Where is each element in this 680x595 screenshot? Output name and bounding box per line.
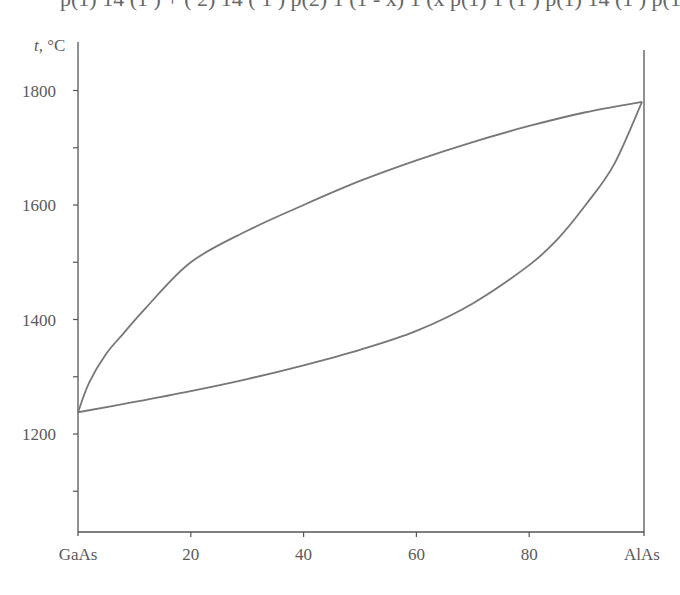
y-tick-label: 1600	[22, 196, 56, 215]
y-tick-label: 1800	[22, 82, 56, 101]
tick-labels: 1200140016001800GaAs20406080AlAs	[22, 82, 660, 565]
x-tick-label: 40	[295, 545, 312, 564]
y-tick-label: 1200	[22, 425, 56, 444]
phase-diagram-chart: 1200140016001800GaAs20406080AlAs t, °C	[0, 0, 680, 595]
x-tick-label: 20	[182, 545, 199, 564]
y-axis-label: t, °C	[34, 36, 65, 55]
x-tick-label: GaAs	[59, 545, 98, 564]
x-tick-label: 60	[408, 545, 425, 564]
x-tick-label: AlAs	[624, 545, 660, 564]
y-tick-label: 1400	[22, 311, 56, 330]
curves	[78, 102, 642, 412]
liquidus-curve	[78, 102, 642, 412]
x-tick-label: 80	[521, 545, 538, 564]
solidus-curve	[78, 102, 642, 412]
y-label-unit: , °C	[39, 36, 66, 55]
